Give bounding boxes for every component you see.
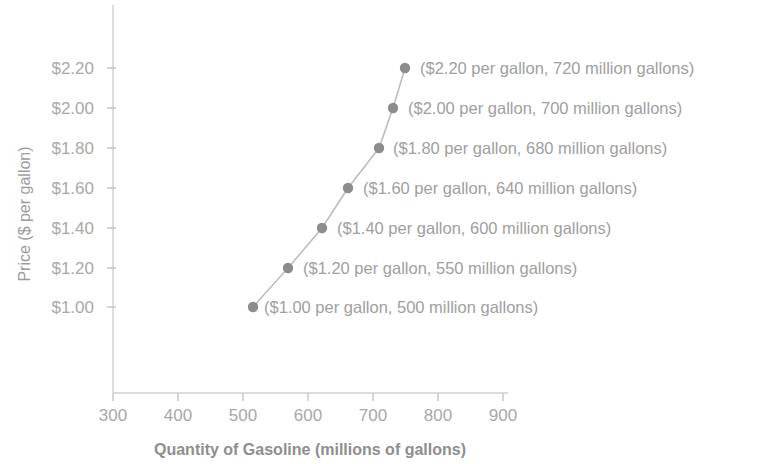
x-tick-label-500: 500 — [213, 407, 273, 424]
x-tick-label-800: 800 — [408, 407, 468, 424]
point-label-1-00: ($1.00 per gallon, 500 million gallons) — [264, 299, 538, 316]
x-axis-ticks — [113, 393, 503, 401]
data-point-marker — [388, 103, 398, 113]
data-point-marker — [343, 183, 353, 193]
point-label-2-20: ($2.20 per gallon, 720 million gallons) — [420, 60, 694, 77]
y-axis-ticks — [107, 68, 116, 307]
point-label-1-80: ($1.80 per gallon, 680 million gallons) — [393, 140, 667, 157]
data-point-marker — [317, 223, 327, 233]
y-axis-title: Price ($ per gallon) — [16, 114, 34, 314]
x-tick-label-300: 300 — [83, 407, 143, 424]
point-label-2-00: ($2.00 per gallon, 700 million gallons) — [408, 100, 682, 117]
x-axis-title: Quantity of Gasoline (millions of gallon… — [0, 441, 620, 459]
point-label-1-20: ($1.20 per gallon, 550 million gallons) — [303, 260, 577, 277]
data-point-marker — [248, 302, 258, 312]
data-point-marker — [283, 263, 293, 273]
x-tick-label-600: 600 — [278, 407, 338, 424]
data-point-marker — [374, 143, 384, 153]
x-tick-label-700: 700 — [343, 407, 403, 424]
point-label-1-60: ($1.60 per gallon, 640 million gallons) — [363, 180, 637, 197]
chart-container: $2.20 $2.00 $1.80 $1.60 $1.40 $1.20 $1.0… — [0, 0, 762, 464]
point-label-1-40: ($1.40 per gallon, 600 million gallons) — [337, 220, 611, 237]
x-tick-label-400: 400 — [148, 407, 208, 424]
x-tick-label-900: 900 — [473, 407, 533, 424]
y-tick-label-2-20: $2.20 — [14, 60, 94, 77]
data-point-marker — [400, 63, 410, 73]
